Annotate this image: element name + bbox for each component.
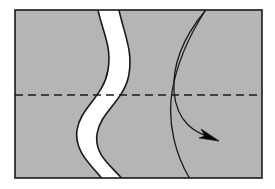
structural-block-diagram: Sinuous band within sheared block with r… <box>0 0 275 189</box>
figure-root: Sinuous band within sheared block with r… <box>0 0 275 189</box>
shaded-block-body <box>15 10 262 178</box>
